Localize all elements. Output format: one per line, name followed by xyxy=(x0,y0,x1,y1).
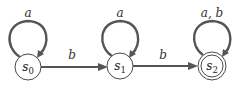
transition-label: b xyxy=(68,48,76,62)
transition-s0-s0: a xyxy=(10,6,47,58)
transition-label: b xyxy=(159,48,167,62)
transition-label: a xyxy=(24,6,31,20)
self-loop-arrow xyxy=(102,21,138,56)
state-s0: s0 xyxy=(15,54,41,80)
state-s2-accepting: s2 xyxy=(198,52,226,80)
transition-label: a, b xyxy=(201,6,223,20)
transition-label: a xyxy=(116,6,123,20)
arrowhead-icon xyxy=(188,62,198,70)
transition-s2-s2: a, b xyxy=(194,6,230,57)
self-loop-arrow xyxy=(10,21,47,57)
state-s1: s1 xyxy=(107,53,133,79)
transition-s0-s1: b xyxy=(41,48,108,71)
arrowhead-icon xyxy=(98,63,108,71)
transition-s1-s2: b xyxy=(133,48,198,70)
automaton-diagram: a b a b a, b s0 s1 s2 xyxy=(0,0,239,86)
transition-s1-s1: a xyxy=(102,6,138,58)
self-loop-arrow xyxy=(194,21,230,55)
